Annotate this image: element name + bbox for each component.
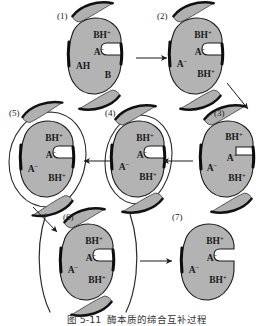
step-7-structure: BH+ A− A− BH+ — [181, 224, 234, 300]
residue-bottom: B — [105, 70, 112, 80]
step-label-7: (7) — [172, 212, 183, 222]
step-2-structure: BH+ A− A− BH+ — [169, 0, 223, 112]
figure-caption: 图 5-11酶本质的缔合互补过程 — [0, 312, 274, 326]
figure-caption-text: 酶本质的缔合互补过程 — [107, 314, 207, 325]
step-5-structure: BH+ A− A− BH+ — [9, 99, 86, 218]
shell-half-left — [39, 214, 50, 312]
step-1-structure: BH+ A− AH B — [68, 0, 122, 112]
step-label-4: (4) — [105, 108, 116, 118]
figure-number: 图 5-11 — [67, 314, 102, 325]
step-label-6: (6) — [63, 212, 74, 222]
step-6-structure: BH+ A− A− BH+ — [39, 206, 137, 318]
step-3-structure: BH+ A− A− BH+ — [200, 103, 254, 215]
step-label-1: (1) — [57, 11, 68, 21]
step-4-structure: BH+ A− A− BH+ — [105, 103, 172, 215]
step-label-3: (3) — [214, 108, 225, 118]
step-label-5: (5) — [9, 108, 20, 118]
reaction-scheme-figure: BH+ A− AH B BH+ A− A− BH+ — [0, 0, 274, 326]
residue-left: AH — [76, 61, 91, 71]
shell-half-right — [126, 214, 137, 312]
step-label-2: (2) — [157, 11, 168, 21]
